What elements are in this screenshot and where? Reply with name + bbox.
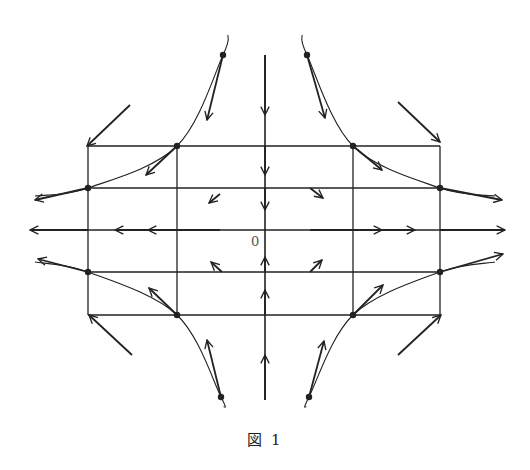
- trajectory-point: [174, 143, 180, 149]
- trajectory-point: [174, 312, 180, 318]
- trajectory-point: [85, 185, 91, 191]
- trajectory-point: [350, 312, 356, 318]
- figure-caption: 図 1: [0, 428, 530, 449]
- origin-label: 0: [251, 234, 259, 249]
- trajectory-points: [85, 52, 443, 400]
- vector-arrow-icon: [398, 315, 441, 355]
- trajectory-point: [304, 52, 310, 58]
- vector-arrow-icon: [38, 259, 88, 272]
- trajectory-curve-upper-right: [302, 35, 495, 196]
- vector-arrow-icon: [149, 288, 177, 315]
- vector-arrow-icon: [440, 254, 503, 272]
- vector-arrow-icon: [310, 188, 323, 198]
- vector-arrow-icon: [310, 260, 322, 272]
- trajectory-curve-upper-left: [35, 35, 228, 196]
- phase-portrait-figure: 0: [0, 0, 530, 470]
- vector-arrow-icon: [211, 262, 222, 272]
- vector-arrow-icon: [89, 315, 132, 355]
- trajectory-point: [437, 269, 443, 275]
- trajectory-curve-lower-left: [35, 262, 225, 407]
- vector-arrow-icon: [87, 105, 130, 146]
- trajectory-point: [218, 394, 224, 400]
- trajectory-curve-lower-right: [305, 262, 495, 407]
- trajectory-point: [437, 185, 443, 191]
- vector-arrow-icon: [35, 188, 88, 200]
- trajectory-point: [85, 269, 91, 275]
- vector-arrow-icon: [209, 194, 220, 203]
- vector-arrow-icon: [207, 55, 223, 120]
- vector-arrow-icon: [353, 146, 382, 170]
- trajectory-point: [306, 394, 312, 400]
- phase-portrait-diagram: 0: [0, 0, 530, 470]
- vector-arrow-icon: [440, 188, 502, 200]
- vector-arrow-icon: [353, 285, 383, 315]
- vector-arrow-icon: [146, 146, 177, 175]
- vector-arrow-icon: [307, 55, 325, 118]
- trajectory-point: [350, 143, 356, 149]
- vector-arrow-icon: [398, 102, 440, 142]
- axes: [30, 55, 505, 400]
- vector-arrow-icon: [309, 341, 324, 397]
- vector-field-arrows: [30, 55, 505, 400]
- trajectory-point: [220, 52, 226, 58]
